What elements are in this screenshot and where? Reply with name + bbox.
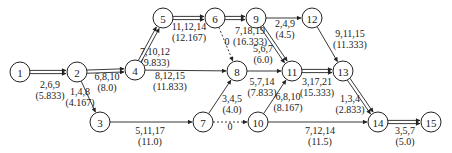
- arc-2-4-critical: [87, 69, 124, 70]
- arc-estimates-label: 2,4,9: [275, 18, 295, 29]
- event-node-6: 6: [205, 8, 225, 28]
- arc-estimates-label: 1,3,4: [340, 93, 360, 104]
- event-node-4: 4: [125, 60, 145, 80]
- arc-expected-time-label: (11.5): [308, 136, 332, 148]
- node-label: 10: [253, 117, 265, 129]
- node-label: 4: [132, 65, 138, 77]
- arc-estimates-label: 2,6,9: [40, 79, 60, 90]
- arc-expected-time-label: (11.0): [138, 136, 162, 148]
- event-node-15: 15: [421, 112, 441, 132]
- arc-expected-time-label: (16.333): [233, 36, 267, 48]
- arc-expected-time-label: (12.167): [172, 32, 206, 44]
- arc-expected-time-label: (4.5): [275, 29, 294, 41]
- arc-estimates-label: 3,4,5: [222, 93, 242, 104]
- arc-expected-time-label: (4.0): [222, 104, 241, 116]
- node-label: 12: [307, 13, 318, 25]
- arc-estimates-label: 7,12,14: [305, 125, 335, 136]
- arc-estimates-label: 5,11,17: [135, 125, 165, 136]
- arc-estimates-label: 7,10,12: [140, 46, 170, 57]
- arc-estimates-label: 1,4,8: [70, 86, 90, 97]
- arc-estimates-label: 6,8,10: [276, 91, 301, 102]
- arc-expected-time-label: (11.833): [153, 81, 187, 93]
- node-label: 6: [212, 13, 218, 25]
- node-label: 11: [287, 66, 298, 78]
- arc-expected-time-label: (6.0): [253, 54, 272, 66]
- node-label: 9: [253, 13, 259, 25]
- arc-expected-time-label: (7.833): [247, 87, 276, 99]
- event-node-13: 13: [333, 61, 353, 81]
- arc-estimates-label: 3,17,21: [302, 76, 332, 87]
- event-node-9: 9: [246, 8, 266, 28]
- arc-expected-time-label: (2.833): [335, 104, 364, 116]
- node-label: 5: [160, 13, 166, 25]
- arc-estimates-label: 6,8,10: [95, 71, 120, 82]
- node-label: 8: [234, 66, 240, 78]
- arc-estimates-label: 8,12,15: [155, 70, 185, 81]
- event-node-12: 12: [302, 8, 322, 28]
- arc-estimates-label: 9,11,15: [335, 28, 365, 39]
- event-node-3: 3: [90, 112, 110, 132]
- event-node-2: 2: [67, 62, 87, 82]
- arc-estimates-label: 5,7,14: [250, 76, 275, 87]
- node-label: 2: [74, 67, 80, 79]
- node-label: 1: [17, 67, 23, 79]
- arc-expected-time-label: (4.167): [65, 97, 94, 109]
- arc-expected-time-label: (5.833): [35, 90, 64, 102]
- arc-estimates-label: 0: [225, 36, 230, 47]
- pert-network-diagram: 2,6,9(5.833)6,8,10(8.0)1,4,8(4.167)7,10,…: [0, 0, 452, 153]
- arc-estimates-label: 11,12,14: [172, 21, 207, 32]
- node-label: 14: [373, 117, 385, 129]
- arc-expected-time-label: (8.167): [273, 102, 302, 114]
- arc-expected-time-label: (15.333): [300, 87, 334, 99]
- event-node-11: 11: [282, 61, 302, 81]
- node-label: 3: [97, 117, 103, 129]
- event-node-8: 8: [227, 61, 247, 81]
- node-label: 13: [338, 66, 350, 78]
- event-node-14: 14: [368, 112, 388, 132]
- event-node-5: 5: [153, 8, 173, 28]
- arc-expected-time-label: (11.333): [333, 39, 367, 51]
- event-node-1: 1: [10, 62, 30, 82]
- arc-estimates-label: 3,5,7: [395, 125, 415, 136]
- node-label: 7: [200, 117, 206, 129]
- arc-estimates-label: 0: [228, 121, 233, 132]
- node-label: 15: [426, 117, 438, 129]
- arc-expected-time-label: (5.0): [395, 136, 414, 148]
- arc-expected-time-label: (8.0): [97, 82, 116, 94]
- event-node-7: 7: [193, 112, 213, 132]
- event-node-10: 10: [248, 112, 268, 132]
